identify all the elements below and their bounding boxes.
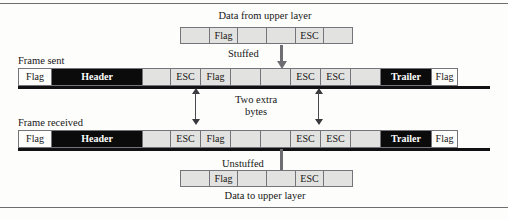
data-to-upper-layer-label: Data to upper layer bbox=[225, 190, 306, 202]
extra-bytes-left-arrow-head-up-icon bbox=[192, 88, 200, 94]
data-from-upper-layer-strip: FlagESC bbox=[180, 27, 352, 44]
byte-cell-empty bbox=[323, 170, 353, 187]
top-divider-rule bbox=[0, 3, 508, 4]
byte-cell-flag: Flag bbox=[200, 68, 231, 86]
byte-cell-esc: ESC bbox=[295, 170, 325, 187]
byte-cell-flag: Flag bbox=[200, 130, 231, 148]
byte-cell-flag: Flag bbox=[431, 68, 458, 86]
byte-cell-esc: ESC bbox=[295, 27, 325, 44]
extra-bytes-left-arrow-head-down-icon bbox=[192, 119, 200, 125]
data-to-upper-layer-strip: FlagESC bbox=[180, 170, 352, 187]
figure-canvas: Data from upper layer FlagESC Stuffed Fr… bbox=[0, 0, 508, 220]
byte-cell-empty bbox=[180, 27, 210, 44]
byte-cell-empty bbox=[237, 27, 267, 44]
byte-cell-flag: Flag bbox=[431, 130, 458, 148]
stuffed-label: Stuffed bbox=[228, 48, 259, 60]
frame-received-strip: FlagHeaderESCFlagESCESCTrailerFlag bbox=[18, 130, 457, 148]
frame-sent-label: Frame sent bbox=[18, 55, 64, 67]
byte-cell-esc: ESC bbox=[290, 68, 321, 86]
byte-cell-empty bbox=[260, 68, 291, 86]
two-extra-bytes-label-line2: bytes bbox=[245, 106, 267, 118]
extra-bytes-right-arrow-head-up-icon bbox=[315, 88, 323, 94]
frame-received-baseline bbox=[18, 148, 490, 151]
byte-cell-esc: ESC bbox=[290, 130, 321, 148]
two-extra-bytes-label-line1: Two extra bbox=[235, 94, 277, 106]
bottom-divider-rule bbox=[0, 207, 508, 208]
byte-cell-esc: ESC bbox=[170, 68, 201, 86]
byte-cell-empty bbox=[266, 170, 296, 187]
frame-received-label: Frame received bbox=[18, 117, 83, 129]
extra-bytes-right-arrow-head-down-icon bbox=[315, 119, 323, 125]
byte-cell-esc: ESC bbox=[320, 130, 351, 148]
byte-cell-esc: ESC bbox=[170, 130, 201, 148]
byte-cell-header: Header bbox=[51, 68, 143, 86]
data-from-upper-layer-label: Data from upper layer bbox=[219, 10, 312, 22]
byte-cell-trailer: Trailer bbox=[380, 130, 432, 148]
byte-cell-empty bbox=[230, 130, 261, 148]
byte-cell-flag: Flag bbox=[209, 170, 239, 187]
frame-sent-strip: FlagHeaderESCFlagESCESCTrailerFlag bbox=[18, 68, 457, 86]
byte-cell-empty bbox=[323, 27, 353, 44]
byte-cell-empty bbox=[350, 68, 381, 86]
byte-cell-empty bbox=[142, 130, 171, 148]
byte-cell-trailer: Trailer bbox=[380, 68, 432, 86]
byte-cell-empty bbox=[350, 130, 381, 148]
byte-cell-empty bbox=[260, 130, 291, 148]
byte-cell-esc: ESC bbox=[320, 68, 351, 86]
frame-sent-baseline bbox=[18, 86, 490, 89]
unstuffed-label: Unstuffed bbox=[222, 158, 264, 170]
byte-cell-flag: Flag bbox=[18, 68, 52, 86]
byte-cell-header: Header bbox=[51, 130, 143, 148]
byte-cell-empty bbox=[230, 68, 261, 86]
byte-cell-empty bbox=[180, 170, 210, 187]
extra-bytes-left-arrow-shaft bbox=[195, 92, 196, 120]
byte-cell-empty bbox=[237, 170, 267, 187]
byte-cell-flag: Flag bbox=[18, 130, 52, 148]
byte-cell-empty bbox=[266, 27, 296, 44]
byte-cell-flag: Flag bbox=[209, 27, 239, 44]
extra-bytes-right-arrow-shaft bbox=[318, 92, 319, 120]
byte-cell-empty bbox=[142, 68, 171, 86]
